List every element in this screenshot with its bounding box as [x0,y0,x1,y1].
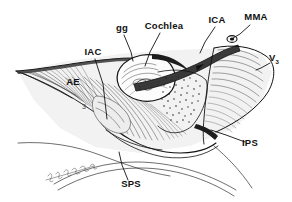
inline-number-n2: 2 [137,85,141,92]
label-mma: MMA [244,11,267,22]
inline-number-n3: 3 [82,103,86,110]
label-v3-subscript: 3 [276,59,280,65]
label-ica: ICA [209,14,226,25]
label-gg: gg [116,22,128,33]
anatomical-figure: ggCochleaICAMMAV3IACAEIPSSPS 32 [0,0,292,202]
label-ae: AE [66,76,80,87]
label-sps: SPS [121,178,141,189]
illustration-canvas: ggCochleaICAMMAV3IACAEIPSSPS 32 [0,0,292,202]
label-iac: IAC [85,46,102,57]
label-cochlea: Cochlea [145,20,184,31]
label-ips: IPS [242,137,258,148]
